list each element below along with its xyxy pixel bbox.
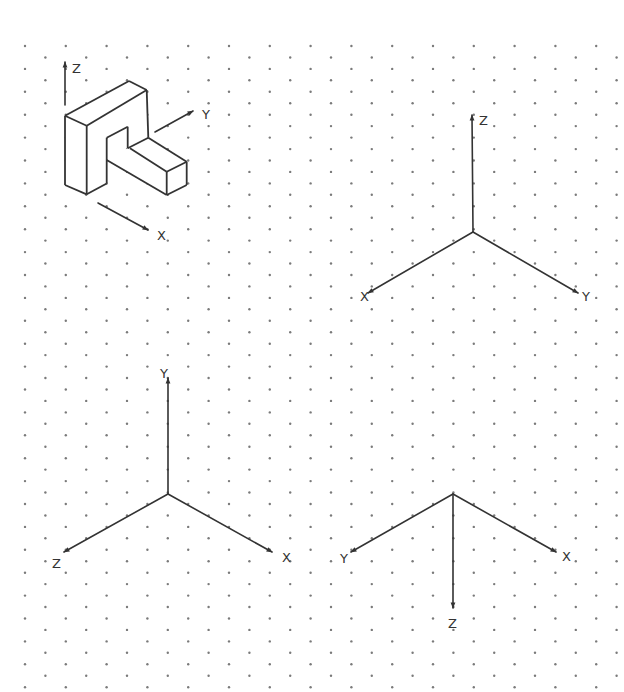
grid-dot	[513, 549, 515, 551]
grid-dot	[391, 274, 393, 276]
grid-dot	[534, 468, 536, 470]
grid-dot	[575, 652, 577, 654]
grid-dot	[391, 159, 393, 161]
axis-y-arrow-icon	[473, 232, 578, 293]
grid-dot	[207, 262, 209, 264]
grid-dot	[207, 194, 209, 196]
grid-dot	[554, 457, 556, 459]
grid-dot	[24, 136, 26, 138]
grid-dot	[391, 411, 393, 413]
grid-dot	[473, 68, 475, 70]
grid-dot	[24, 45, 26, 47]
grid-dot	[24, 663, 26, 665]
grid-dot	[350, 388, 352, 390]
grid-dot	[289, 308, 291, 310]
grid-dot	[65, 480, 67, 482]
grid-dot	[595, 663, 597, 665]
grid-dot	[493, 102, 495, 104]
grid-dot	[65, 640, 67, 642]
grid-dot	[228, 274, 230, 276]
grid-dot	[391, 68, 393, 70]
grid-dot	[228, 68, 230, 70]
axis-y-arrow-icon	[351, 494, 453, 552]
grid-dot	[473, 251, 475, 253]
grid-dot	[432, 251, 434, 253]
grid-dot	[473, 297, 475, 299]
grid-dot	[534, 560, 536, 562]
grid-dot	[65, 251, 67, 253]
grid-dot	[534, 148, 536, 150]
grid-dot	[330, 56, 332, 58]
dot-grid	[24, 45, 618, 689]
grid-dot	[575, 423, 577, 425]
grid-dot	[575, 285, 577, 287]
grid-dot	[391, 434, 393, 436]
grid-dot	[391, 617, 393, 619]
grid-dot	[167, 217, 169, 219]
grid-dot	[187, 297, 189, 299]
grid-dot	[187, 617, 189, 619]
grid-dot	[432, 617, 434, 619]
grid-dot	[432, 365, 434, 367]
grid-dot	[167, 560, 169, 562]
grid-dot	[575, 171, 577, 173]
grid-dot	[513, 572, 515, 574]
grid-dot	[126, 262, 128, 264]
grid-dot	[493, 491, 495, 493]
grid-dot	[513, 182, 515, 184]
grid-dot	[207, 79, 209, 81]
axis-x-arrow-icon	[453, 494, 556, 552]
grid-dot	[187, 343, 189, 345]
grid-dot	[167, 262, 169, 264]
grid-dot	[493, 194, 495, 196]
grid-dot	[187, 549, 189, 551]
grid-dot	[534, 400, 536, 402]
grid-dot	[65, 411, 67, 413]
grid-dot	[432, 549, 434, 551]
grid-dot	[269, 457, 271, 459]
grid-dot	[473, 343, 475, 345]
grid-dot	[513, 91, 515, 93]
grid-dot	[452, 331, 454, 333]
grid-dot	[248, 400, 250, 402]
grid-dot	[513, 503, 515, 505]
grid-dot	[615, 377, 617, 379]
grid-dot	[411, 629, 413, 631]
grid-dot	[289, 354, 291, 356]
grid-dot	[167, 537, 169, 539]
grid-dot	[187, 411, 189, 413]
grid-dot	[248, 217, 250, 219]
grid-dot	[432, 411, 434, 413]
grid-dot	[411, 606, 413, 608]
grid-dot	[85, 675, 87, 677]
grid-dot	[330, 308, 332, 310]
grid-dot	[452, 675, 454, 677]
grid-dot	[289, 652, 291, 654]
grid-dot	[595, 274, 597, 276]
grid-dot	[126, 468, 128, 470]
grid-dot	[350, 136, 352, 138]
grid-dot	[391, 182, 393, 184]
grid-dot	[269, 365, 271, 367]
grid-dot	[595, 480, 597, 482]
y-arrow-label: Y	[201, 107, 210, 122]
grid-dot	[554, 91, 556, 93]
grid-dot	[24, 91, 26, 93]
grid-dot	[309, 320, 311, 322]
grid-dot	[187, 205, 189, 207]
grid-dot	[44, 606, 46, 608]
grid-dot	[493, 423, 495, 425]
grid-dot	[350, 411, 352, 413]
grid-dot	[473, 480, 475, 482]
grid-dot	[24, 572, 26, 574]
grid-dot	[167, 285, 169, 287]
grid-dot	[411, 79, 413, 81]
grid-dot	[167, 629, 169, 631]
grid-dot	[269, 136, 271, 138]
grid-dot	[452, 148, 454, 150]
grid-dot	[330, 583, 332, 585]
grid-dot	[493, 56, 495, 58]
grid-dot	[309, 457, 311, 459]
grid-dot	[452, 400, 454, 402]
grid-dot	[126, 629, 128, 631]
